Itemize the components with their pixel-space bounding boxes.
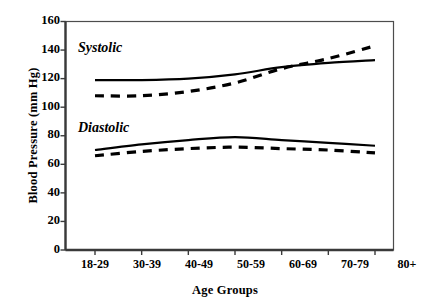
- series-line-diastolic-dashed: [95, 147, 375, 156]
- series-line-systolic-dashed: [95, 46, 375, 96]
- series-line-diastolic-solid: [95, 137, 375, 150]
- plot-border: [66, 22, 394, 251]
- series-line-systolic-solid: [95, 60, 375, 80]
- axis-frame: [66, 22, 394, 251]
- data-series-group: [95, 46, 375, 156]
